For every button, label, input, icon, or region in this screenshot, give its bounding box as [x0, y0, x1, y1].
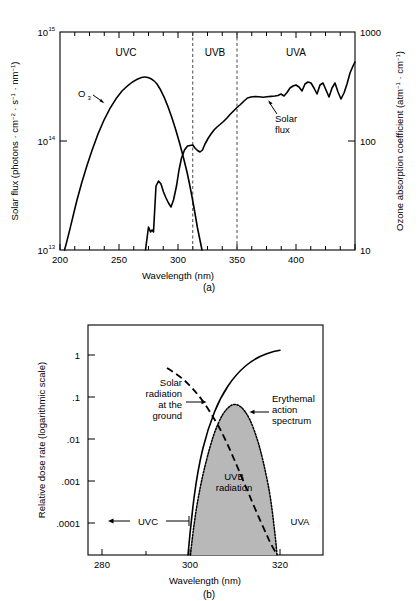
annot-ery-line2: action — [272, 404, 297, 415]
annot-uva-text: UVA — [291, 516, 310, 527]
svg-text:Ozone absorption coefficient (: Ozone absorption coefficient (atm−1 · cm… — [394, 51, 405, 231]
ytick-b-001: .01 — [67, 434, 80, 445]
ylabel-left-part3: · nm — [9, 71, 20, 93]
panel-b-x-tick-labels: 280 300 320 — [94, 559, 288, 570]
figure-container: O 3 Solar flux UVC UVB UVA 10 15 10 14 — [0, 0, 418, 601]
annot-solar-line2: radiation — [146, 388, 182, 399]
ytick-left-1e14-base: 10 — [37, 136, 48, 147]
panel-b-uvb-dose-rate: Solar radiation at the ground Erythemal … — [0, 290, 418, 601]
band-label-uva: UVA — [286, 47, 306, 58]
ytick-b-00001: .0001 — [56, 518, 80, 529]
ytick-left-1e13-exp: 13 — [49, 244, 56, 250]
band-label-uvc: UVC — [115, 47, 136, 58]
annot-solar-line3: at the — [158, 399, 182, 410]
xtick-200: 200 — [52, 254, 68, 265]
ylabel-left-part4: ) — [9, 62, 20, 65]
panel-a-left-tick-labels: 10 15 10 14 10 13 — [37, 26, 55, 256]
ytick-right-100: 100 — [360, 136, 376, 147]
xtick-400: 400 — [288, 254, 304, 265]
panel-a-ylabel-left: Solar flux (photons · cm−2 · s−1 · nm−1) — [9, 62, 20, 221]
panel-b-y-tick-labels: 1 .1 .01 .001 .0001 — [56, 350, 80, 529]
annot-uvb-line1: UVB — [224, 471, 244, 482]
panel-a-ylabel-right: Ozone absorption coefficient (atm−1 · cm… — [394, 51, 405, 231]
xtick-b-280: 280 — [94, 559, 110, 570]
panel-b-caption: (b) — [203, 589, 215, 600]
ylabel-right-part3: ) — [394, 51, 405, 54]
svg-text:Solar flux (photons · cm−2 · s: Solar flux (photons · cm−2 · s−1 · nm−1) — [9, 62, 20, 221]
label-ozone-text: O — [78, 88, 85, 99]
panel-b-ylabel: Relative dose rate (logarithmic scale) — [36, 362, 47, 518]
ytick-left-1e14-exp: 14 — [49, 135, 56, 141]
label-solar-flux-line2: flux — [275, 124, 290, 135]
annot-uvc-text: UVC — [138, 516, 158, 527]
annot-uvb-line2: radiation — [216, 482, 252, 493]
panel-b-xlabel: Wavelength (nm) — [169, 575, 241, 586]
ylabel-left-part1: Solar flux (photons · cm — [9, 120, 20, 220]
xtick-300: 300 — [170, 254, 186, 265]
ytick-right-10: 10 — [360, 245, 371, 256]
ytick-left-1e13-base: 10 — [37, 245, 48, 256]
xtick-b-320: 320 — [272, 559, 288, 570]
annot-ery-line1: Erythemal — [272, 393, 315, 404]
panel-a-x-tick-labels: 200 250 300 350 400 — [52, 254, 304, 265]
annot-ery-line3: spectrum — [272, 415, 311, 426]
ytick-right-1000: 1000 — [360, 27, 381, 38]
annot-solar-line1: Solar — [160, 377, 182, 388]
panel-a-right-tick-labels: 1000 100 10 — [360, 27, 381, 256]
ytick-b-0001: .001 — [62, 476, 81, 487]
xtick-350: 350 — [229, 254, 245, 265]
ytick-b-1: 1 — [75, 350, 80, 361]
annot-solar-line4: ground — [152, 410, 182, 421]
band-label-uvb: UVB — [205, 47, 226, 58]
panel-a-svg: O 3 Solar flux UVC UVB UVA 10 15 10 14 — [0, 0, 418, 290]
xtick-b-300: 300 — [182, 559, 198, 570]
xtick-250: 250 — [111, 254, 127, 265]
ylabel-left-part2: · s — [9, 100, 20, 113]
ytick-left-1e15-base: 10 — [37, 27, 48, 38]
ylabel-right-part2: · cm — [394, 61, 405, 82]
ytick-left-1e15-exp: 15 — [49, 26, 56, 32]
label-solar-flux-line1: Solar — [275, 113, 297, 124]
ytick-b-01: .1 — [72, 392, 80, 403]
panel-b-svg: Solar radiation at the ground Erythemal … — [0, 290, 418, 601]
ylabel-right-part1: Ozone absorption coefficient (atm — [394, 89, 405, 231]
panel-b-ylabel-text: Relative dose rate (logarithmic scale) — [36, 362, 47, 518]
panel-a-xlabel: Wavelength (nm) — [142, 270, 214, 281]
panel-a-solar-flux-ozone: O 3 Solar flux UVC UVB UVA 10 15 10 14 — [0, 0, 418, 290]
